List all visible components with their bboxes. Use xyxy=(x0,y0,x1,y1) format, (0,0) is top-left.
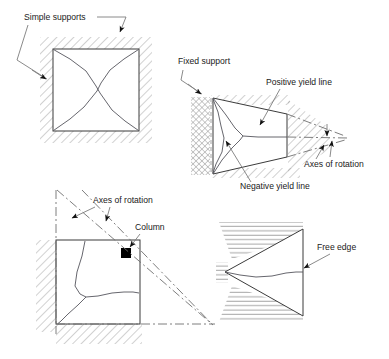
label-fixed-support: Fixed support xyxy=(178,56,231,66)
slab-outline-square-1 xyxy=(53,49,139,131)
column-panel-hatch-bottom xyxy=(56,324,142,344)
label-negative-yield-line: Negative yield line xyxy=(240,181,310,191)
leader-fixed-support xyxy=(181,70,202,94)
leader-axes-rotation-left-a xyxy=(72,207,95,218)
yield-line-figure: Simple supports Fixed support Positive y… xyxy=(0,0,389,359)
leader-arrow-fixed-support xyxy=(188,84,201,94)
leader-free-edge xyxy=(304,254,330,268)
label-free-edge: Free edge xyxy=(317,242,356,252)
leader-axes-rotation-left-b xyxy=(106,207,110,221)
diagram-canvas: Simple supports Fixed support Positive y… xyxy=(0,0,389,359)
slab-outline-trapezoid xyxy=(213,98,287,174)
panel-free-edge-triangle: Free edge xyxy=(216,222,356,322)
label-axes-of-rotation-right: Axes of rotation xyxy=(304,159,364,169)
column-panel-hatch-left xyxy=(36,240,56,332)
leader-axes-rotation-right-b xyxy=(330,141,332,157)
label-positive-yield-line: Positive yield line xyxy=(266,77,332,87)
panel-fixed-support-trapezoid: Fixed support Positive yield line Negati… xyxy=(178,56,364,191)
panel-column-supported-square: Axes of rotation Column xyxy=(36,190,215,344)
panel-simply-supported-square: Simple supports xyxy=(17,12,152,143)
label-column: Column xyxy=(135,222,165,232)
label-simple-supports: Simple supports xyxy=(24,12,86,22)
fixed-support-crosshatch xyxy=(191,97,210,175)
label-axes-of-rotation-left: Axes of rotation xyxy=(93,195,153,205)
leader-arrow-simple-supports-top xyxy=(120,17,126,32)
